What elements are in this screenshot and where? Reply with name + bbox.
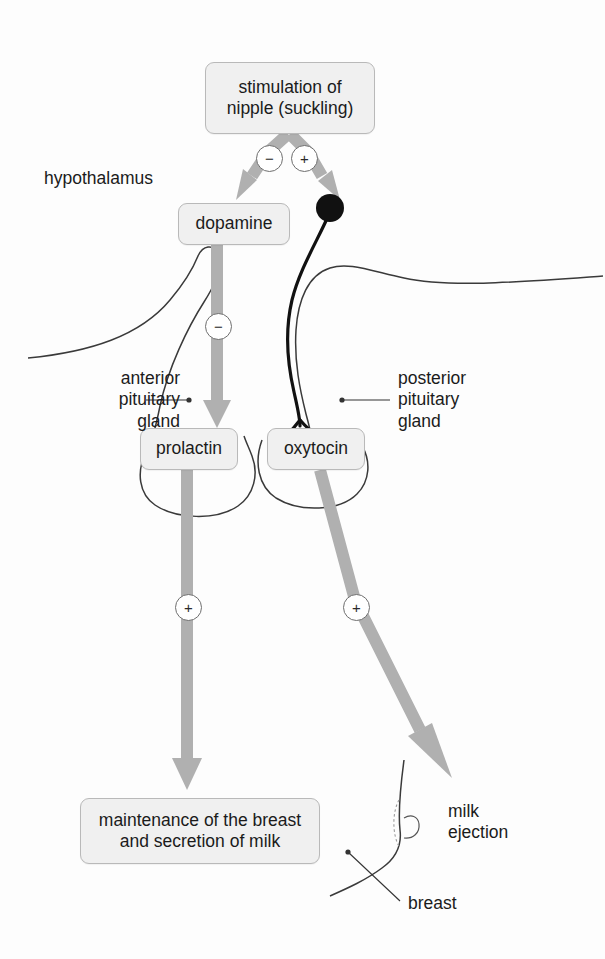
- node-prolactin[interactable]: prolactin: [140, 428, 238, 470]
- label-hypothalamus: hypothalamus: [44, 168, 153, 189]
- label-milk-ejection: milk ejection: [448, 801, 508, 844]
- neuron-axon: [288, 212, 330, 426]
- sign-badge-minus-dopamine-inhibition: −: [256, 145, 283, 172]
- neuron-soma: [316, 194, 344, 222]
- nipple-shape: [404, 816, 419, 838]
- diagram-canvas: .gshaft{stroke:#b0b0b0;stroke-width:12;f…: [0, 0, 605, 959]
- label-anterior-pituitary-gland: anterior pituitary gland: [35, 368, 180, 432]
- sign-badge-plus-prolactin-effect: +: [175, 594, 202, 621]
- oxytocin-neuron: [286, 194, 344, 436]
- arrow-prolactin-to-maintenance: [172, 470, 202, 790]
- leader-breast: [345, 849, 400, 901]
- node-maintenance-of-breast[interactable]: maintenance of the breast and secretion …: [80, 798, 320, 864]
- node-dopamine[interactable]: dopamine: [178, 203, 290, 245]
- sign-badge-plus-oxytocin-effect: +: [343, 594, 370, 621]
- node-oxytocin[interactable]: oxytocin: [267, 428, 365, 470]
- label-posterior-pituitary-gland: posterior pituitary gland: [398, 368, 466, 432]
- node-stimulation-of-nipple[interactable]: stimulation of nipple (suckling): [205, 62, 375, 134]
- leader-posterior-pituitary: [339, 397, 390, 402]
- breast-outline: [330, 760, 404, 896]
- sign-badge-minus-prolactin-inhibition: −: [205, 313, 232, 340]
- label-breast: breast: [408, 893, 457, 914]
- sign-badge-plus-neuron-activation: +: [291, 145, 318, 172]
- arrow-oxytocin-to-milk-ejection: [320, 470, 452, 778]
